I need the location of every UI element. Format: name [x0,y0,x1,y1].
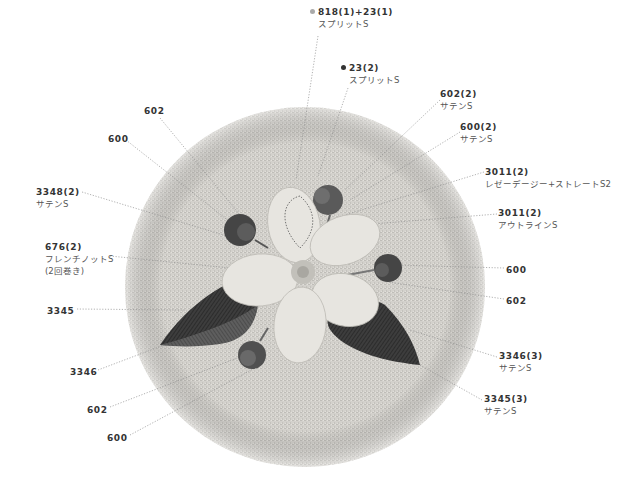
label-602-bottom-left: 602 [87,404,108,416]
label-23: 23(2) スプリットS [341,62,399,86]
label-600-right: 600 [506,264,527,276]
label-3011-outline: 3011(2) アウトラインS [498,207,557,231]
label-3345-left: 3345 [47,305,74,317]
label-602-2: 602(2) サテンS [440,88,477,112]
label-602-top-left: 602 [144,105,165,117]
label-3346-left: 3346 [70,366,97,378]
label-600-2: 600(2) サテンS [460,121,497,145]
label-818-23: 818(1)+23(1) スプリットS [310,6,393,30]
label-3346-3: 3346(3) サテンS [499,350,543,374]
light-dot-icon [310,9,315,14]
flower-center [291,260,315,284]
label-676-2: 676(2) フレンチノットS (2回巻き) [45,241,113,277]
label-602-right: 602 [506,295,527,307]
dark-dot-icon [341,65,346,70]
label-3011-lazy-daisy: 3011(2) レゼーデージー+ストレートS2 [485,166,611,190]
label-3345-3: 3345(3) サテンS [484,393,528,417]
label-600-bottom-left: 600 [107,432,128,444]
label-3348-2: 3348(2) サテンS [36,186,80,210]
label-600-top-left: 600 [108,133,129,145]
